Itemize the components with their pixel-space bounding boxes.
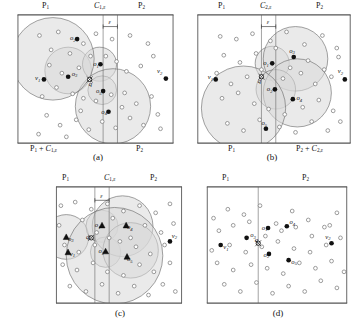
panel-a-plot: v1v2o2o3o1o5o4qε <box>8 14 183 144</box>
data-point <box>95 231 99 235</box>
data-point <box>294 130 298 134</box>
data-point <box>276 240 280 244</box>
data-point <box>159 127 163 131</box>
data-point <box>260 68 264 72</box>
data-point <box>150 95 154 99</box>
data-point <box>288 66 292 70</box>
data-point <box>163 243 167 247</box>
data-point <box>292 247 296 251</box>
point-marker-o3 <box>291 55 296 60</box>
data-point <box>326 129 330 133</box>
data-point <box>269 39 273 43</box>
data-point <box>77 250 81 254</box>
data-point <box>231 268 235 272</box>
point-label-o4: o4 <box>290 218 296 227</box>
data-point <box>56 30 60 34</box>
svg-d-content <box>210 187 346 303</box>
data-point <box>49 48 53 52</box>
point-marker-o4 <box>285 224 290 229</box>
data-point <box>310 120 314 124</box>
panel-d-top-left-label: P1 <box>222 173 229 182</box>
data-point <box>168 261 172 265</box>
data-point <box>247 220 251 224</box>
data-point <box>283 113 287 117</box>
data-point <box>335 211 339 215</box>
panel-a-bottom-left-label: P1 + C1,ε <box>30 144 57 153</box>
data-point <box>122 209 126 213</box>
data-point <box>147 293 151 297</box>
data-point <box>84 290 88 294</box>
panel-c-top-left-label: P1 <box>62 173 69 182</box>
point-label-v1: v1 <box>208 73 213 82</box>
panel-b-top-right-label: P2 <box>316 1 323 10</box>
data-point <box>122 274 126 278</box>
panel-d-plot: v1v2o3o1o4o2o5q <box>198 186 356 304</box>
data-point <box>231 223 235 227</box>
data-point <box>281 77 285 81</box>
data-point <box>245 75 249 79</box>
data-point <box>94 99 98 103</box>
data-point <box>74 118 78 122</box>
range-circle-6 <box>66 207 163 304</box>
data-point <box>342 270 346 274</box>
point-marker-v1 <box>213 77 218 82</box>
data-point <box>58 123 62 127</box>
panel-b-plot: v1v2o1o3o2o4o5qε <box>188 14 360 144</box>
data-point <box>115 60 119 64</box>
data-point <box>40 95 44 99</box>
data-point <box>281 272 285 276</box>
data-point <box>215 71 219 75</box>
panel-a-top-right-label: P2 <box>138 1 145 10</box>
data-point <box>38 34 42 38</box>
data-point <box>37 132 41 136</box>
data-point <box>63 243 67 247</box>
data-point <box>134 245 138 249</box>
data-point <box>251 32 255 36</box>
data-point <box>290 209 294 213</box>
data-point <box>274 222 278 226</box>
data-point <box>218 35 222 39</box>
data-point <box>306 59 310 63</box>
data-point <box>91 261 95 265</box>
data-point <box>255 281 259 285</box>
data-point <box>212 216 216 220</box>
data-point <box>109 93 113 97</box>
data-point <box>79 109 83 113</box>
panel-b-caption: (b) <box>232 152 312 162</box>
point-label-v2: v2 <box>172 232 178 241</box>
point-label-v2: v2 <box>338 67 344 76</box>
data-point <box>319 279 323 283</box>
data-point <box>68 52 72 56</box>
data-point <box>303 290 307 294</box>
data-point <box>94 32 98 36</box>
point-marker-v1 <box>218 243 223 248</box>
point-marker-v1 <box>42 77 47 82</box>
data-point <box>317 98 321 102</box>
data-point <box>244 250 248 254</box>
svg-b-content <box>201 15 347 144</box>
data-point <box>123 91 127 95</box>
epsilon-label: ε <box>267 19 270 25</box>
data-point <box>321 34 325 38</box>
data-point <box>265 266 269 270</box>
data-point <box>89 207 93 211</box>
data-point <box>222 282 226 286</box>
data-point <box>297 261 301 265</box>
data-point <box>106 270 110 274</box>
data-point <box>238 61 242 65</box>
data-point <box>258 204 262 208</box>
data-point <box>75 268 79 272</box>
data-point <box>238 290 242 294</box>
data-point <box>77 66 81 70</box>
data-point <box>310 234 314 238</box>
data-point <box>287 284 291 288</box>
data-point <box>249 263 253 267</box>
data-point <box>114 126 118 130</box>
data-point <box>301 105 305 109</box>
data-point <box>339 236 343 240</box>
data-point <box>242 213 246 217</box>
data-point <box>217 229 221 233</box>
point-label-o1: o1 <box>262 224 268 233</box>
data-point <box>132 284 136 288</box>
data-point <box>172 222 176 226</box>
